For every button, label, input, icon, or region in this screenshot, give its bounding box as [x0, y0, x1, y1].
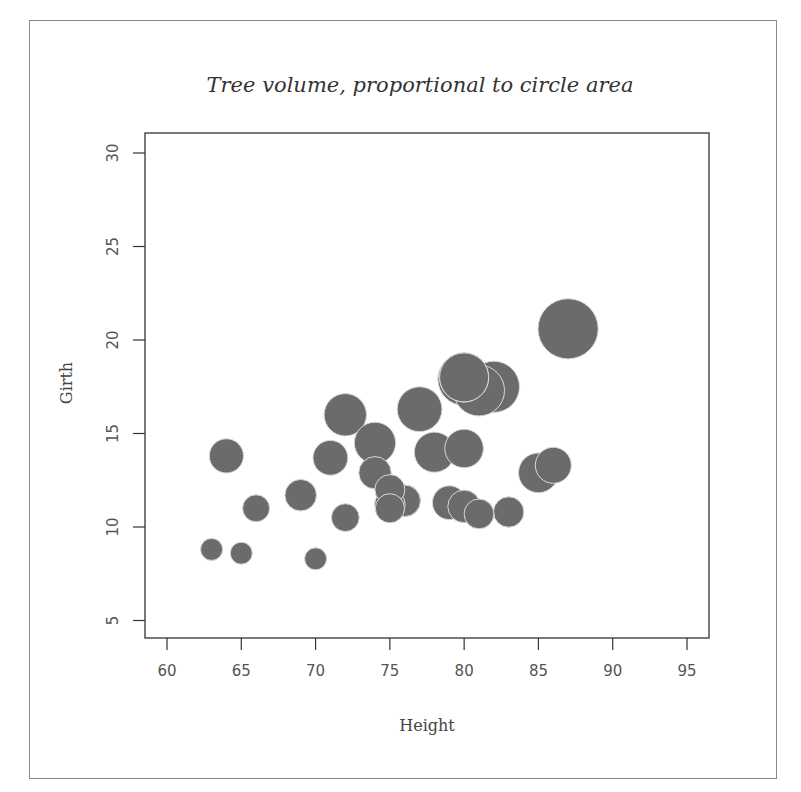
- y-tick-label: 10: [104, 517, 122, 536]
- y-axis-label: Girth: [57, 362, 76, 404]
- y-tick-label: 30: [104, 143, 122, 162]
- y-tick-label: 5: [104, 616, 122, 626]
- x-tick-label: 60: [157, 662, 176, 680]
- bubble: [201, 538, 223, 560]
- bubble: [440, 353, 489, 402]
- bubble: [464, 499, 494, 529]
- bubble: [445, 429, 484, 468]
- y-tick-label: 20: [104, 330, 122, 349]
- x-tick-label: 75: [380, 662, 399, 680]
- x-tick-label: 70: [306, 662, 325, 680]
- x-tick-label: 65: [232, 662, 251, 680]
- bubble: [313, 440, 348, 475]
- y-tick-label: 25: [104, 237, 122, 256]
- bubble: [535, 447, 571, 483]
- chart-title: Tree volume, proportional to circle area: [207, 73, 634, 97]
- bubble: [494, 497, 524, 527]
- plot-area-border: [145, 133, 709, 638]
- bubble: [243, 495, 270, 522]
- bubble-chart: Tree volume, proportional to circle area…: [0, 0, 801, 792]
- x-tick-label: 90: [603, 662, 622, 680]
- bubble: [285, 479, 317, 511]
- bubble: [397, 387, 442, 432]
- x-tick-label: 85: [529, 662, 548, 680]
- x-tick-label: 95: [677, 662, 696, 680]
- bubble: [375, 494, 404, 523]
- x-axis-label: Height: [399, 716, 455, 735]
- bubble: [305, 548, 327, 570]
- x-tick-label: 80: [455, 662, 474, 680]
- bubble: [230, 542, 252, 564]
- x-axis: 6065707580859095: [157, 638, 696, 680]
- bubble-layer: [201, 299, 599, 570]
- y-tick-label: 15: [104, 424, 122, 443]
- bubble: [538, 299, 598, 359]
- bubble: [331, 504, 359, 532]
- y-axis: 51015202530: [104, 143, 145, 625]
- bubble: [209, 439, 243, 473]
